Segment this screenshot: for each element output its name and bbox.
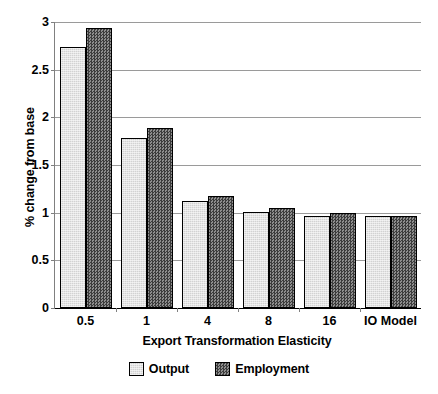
bar-group [243, 22, 295, 308]
bar-employment-4 [208, 196, 234, 308]
bar-output-0.5 [60, 47, 86, 308]
x-tick-label: 8 [265, 314, 272, 328]
bar-employment-16 [330, 213, 356, 308]
legend-swatch-employment [215, 362, 230, 376]
bar-group [365, 22, 417, 308]
legend-entry-employment: Employment [215, 362, 309, 376]
y-tick-label: 0 [42, 301, 49, 315]
bar-employment-io-model [391, 216, 417, 308]
x-tick-mark [360, 308, 361, 312]
x-axis-title: Export Transformation Elasticity [54, 334, 420, 348]
bar-output-1 [121, 138, 147, 308]
bar-group [182, 22, 234, 308]
y-tick-label: 1.5 [32, 158, 49, 172]
bar-group [60, 22, 112, 308]
x-tick-label: 0.5 [77, 314, 94, 328]
x-tick-label: 4 [204, 314, 211, 328]
y-tick-label: 3 [42, 15, 49, 29]
bar-output-io-model [365, 216, 391, 308]
bar-group [304, 22, 356, 308]
bar-employment-0.5 [86, 28, 112, 308]
y-tick-mark [51, 308, 55, 309]
x-tick-label: IO Model [364, 314, 417, 328]
x-tick-mark [299, 308, 300, 312]
bar-output-4 [182, 201, 208, 308]
bars-layer [55, 22, 421, 308]
y-tick-label: 2.5 [32, 63, 49, 77]
x-tick-label: 16 [323, 314, 337, 328]
chart-legend: OutputEmployment [0, 362, 438, 376]
bar-employment-8 [269, 208, 295, 308]
legend-label: Output [149, 362, 189, 376]
x-tick-mark [238, 308, 239, 312]
bar-chart: % change from base 00.511.522.53 0.51481… [0, 0, 438, 394]
y-tick-label: 1 [42, 206, 49, 220]
bar-output-8 [243, 212, 269, 308]
bar-employment-1 [147, 128, 173, 308]
y-tick-label: 0.5 [32, 253, 49, 267]
x-tick-mark [177, 308, 178, 312]
bar-output-16 [304, 216, 330, 308]
plot-area: 00.511.522.53 0.514816IO Model [54, 22, 420, 308]
bar-group [121, 22, 173, 308]
x-tick-mark [116, 308, 117, 312]
y-tick-label: 2 [42, 110, 49, 124]
x-tick-label: 1 [143, 314, 150, 328]
legend-label: Employment [235, 362, 309, 376]
legend-swatch-output [129, 362, 144, 376]
legend-entry-output: Output [129, 362, 189, 376]
